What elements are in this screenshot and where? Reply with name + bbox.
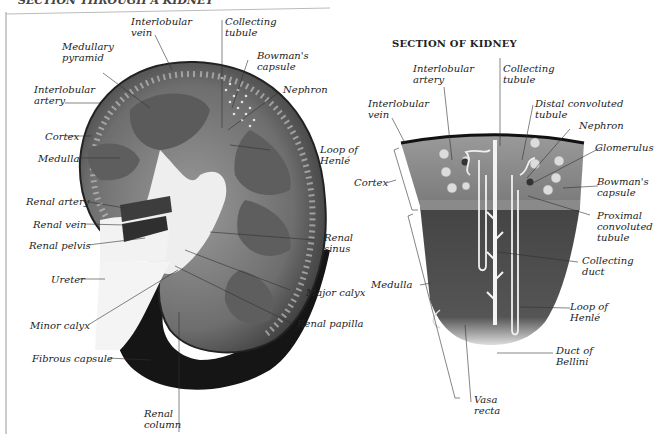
label-glomerulus: Glomerulus xyxy=(595,142,654,153)
label-renal-vein: Renal vein xyxy=(33,219,86,230)
label-medullary-pyramid: Medullary pyramid xyxy=(62,41,114,63)
label-interlobular-vein-left: Interlobular vein xyxy=(131,16,192,38)
label-renal-papilla: Renal papilla xyxy=(297,318,364,329)
kidney-cross-section xyxy=(80,62,330,390)
section-of-kidney-title: SECTION OF KIDNEY xyxy=(392,38,517,49)
label-cortex-right: Cortex xyxy=(354,177,388,188)
label-ureter: Ureter xyxy=(51,274,85,285)
label-collecting-tubule-left: Collecting tubule xyxy=(225,16,277,38)
label-renal-pelvis: Renal pelvis xyxy=(29,240,91,251)
label-medulla-left: Medulla xyxy=(38,153,79,164)
label-renal-artery: Renal artery xyxy=(26,196,89,207)
label-renal-sinus: Renal sinus xyxy=(324,232,353,254)
label-interlobular-artery-left: Interlobular artery xyxy=(34,84,95,106)
label-duct-of-bellini: Duct of Bellini xyxy=(556,345,593,367)
label-interlobular-vein-right: Interlobular vein xyxy=(368,98,429,120)
label-proximal-convoluted-tubule: Proximal convoluted tubule xyxy=(597,210,653,243)
label-vasa-recta: Vasa recta xyxy=(474,394,500,416)
illustration-artwork xyxy=(0,0,660,434)
label-loop-of-henle-left: Loop of Henlé xyxy=(320,144,358,166)
kidney-anatomy-figure: SECTION THROUGH A KIDNEY xyxy=(0,0,660,434)
label-collecting-tubule-right: Collecting tubule xyxy=(503,63,555,85)
label-renal-column: Renal column xyxy=(144,408,181,430)
label-interlobular-artery-right: Interlobular artery xyxy=(413,63,474,85)
label-distal-convoluted-tubule: Distal convoluted tubule xyxy=(535,98,623,120)
label-nephron-left: Nephron xyxy=(283,84,328,95)
label-loop-of-henle-right: Loop of Henlé xyxy=(570,301,608,323)
label-collecting-duct: Collecting duct xyxy=(582,255,634,277)
label-fibrous-capsule: Fibrous capsule xyxy=(32,353,113,364)
label-cortex-left: Cortex xyxy=(45,131,79,142)
label-medulla-right: Medulla xyxy=(371,279,412,290)
label-bowmans-capsule-right: Bowman's capsule xyxy=(597,176,649,198)
label-minor-calyx: Minor calyx xyxy=(30,320,90,331)
kidney-wedge-section xyxy=(401,135,584,345)
label-major-calyx: Major calyx xyxy=(306,287,365,298)
label-nephron-right: Nephron xyxy=(579,120,624,131)
label-bowmans-capsule-left: Bowman's capsule xyxy=(257,50,309,72)
